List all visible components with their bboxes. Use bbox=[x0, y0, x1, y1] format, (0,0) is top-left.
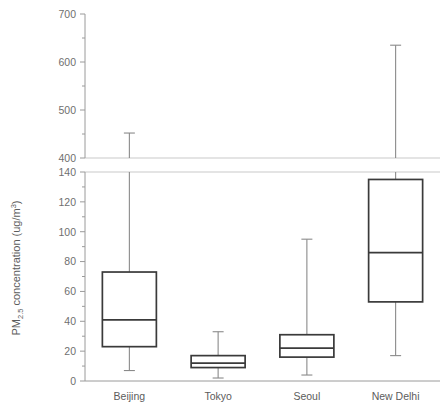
box-body bbox=[102, 272, 156, 347]
box-body bbox=[191, 356, 245, 368]
box-plot-tokyo bbox=[191, 332, 245, 378]
upper-panel: 400500600700 bbox=[58, 8, 440, 164]
lower-tick-label-40: 40 bbox=[64, 315, 76, 327]
lower-tick-label-140: 140 bbox=[58, 166, 76, 178]
category-labels: BeijingTokyoSeoulNew Delhi bbox=[114, 390, 420, 402]
upper-tick-label-700: 700 bbox=[58, 8, 76, 20]
lower-tick-label-20: 20 bbox=[64, 345, 76, 357]
y-axis-title-text: PM2.5 concentration (ug/m3) bbox=[9, 200, 25, 335]
box-plot-seoul bbox=[280, 239, 334, 375]
category-label-beijing: Beijing bbox=[114, 390, 146, 402]
upper-tick-label-400: 400 bbox=[58, 152, 76, 164]
box-plot-beijing bbox=[102, 172, 156, 371]
box-body bbox=[369, 179, 423, 301]
category-label-seoul: Seoul bbox=[293, 390, 320, 402]
upper-tick-label-600: 600 bbox=[58, 56, 76, 68]
category-label-new-delhi: New Delhi bbox=[372, 390, 420, 402]
boxplot-chart: 400500600700 020406080100120140 BeijingT… bbox=[0, 0, 446, 419]
lower-tick-label-60: 60 bbox=[64, 285, 76, 297]
y-axis-title: PM2.5 concentration (ug/m3) bbox=[9, 200, 25, 335]
lower-tick-label-80: 80 bbox=[64, 255, 76, 267]
box-body bbox=[280, 335, 334, 357]
box-plot-new-delhi bbox=[369, 172, 423, 356]
lower-tick-label-100: 100 bbox=[58, 226, 76, 238]
lower-tick-label-120: 120 bbox=[58, 196, 76, 208]
lower-panel: 020406080100120140 bbox=[58, 166, 440, 387]
category-label-tokyo: Tokyo bbox=[204, 390, 232, 402]
upper-tick-label-500: 500 bbox=[58, 104, 76, 116]
chart-canvas: 400500600700 020406080100120140 BeijingT… bbox=[0, 0, 446, 419]
lower-tick-label-0: 0 bbox=[70, 375, 76, 387]
